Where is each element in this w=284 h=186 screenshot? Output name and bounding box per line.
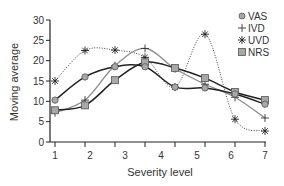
circle-marker-icon	[262, 101, 268, 107]
asterisk-marker-icon	[51, 77, 59, 85]
circle-marker-icon	[142, 64, 148, 70]
line-chart: 0510152025301234567 VAS IVD UVD NRS Seve…	[0, 0, 284, 186]
circle-marker-icon	[52, 97, 58, 103]
x-tick-label: 4	[158, 150, 164, 161]
legend-item-nrs: NRS	[239, 47, 270, 58]
legend-item-vas: VAS	[239, 11, 268, 22]
plus-marker-icon	[238, 24, 246, 32]
legend: VAS IVD UVD NRS	[238, 11, 269, 58]
asterisk-marker-icon	[201, 30, 209, 38]
x-axis-title: Severity level	[127, 166, 192, 178]
y-tick-label: 20	[33, 55, 45, 66]
x-tick-label: 2	[87, 150, 93, 161]
y-tick-label: 30	[33, 15, 45, 26]
legend-item-ivd: IVD	[238, 23, 265, 34]
y-tick-label: 15	[33, 76, 45, 87]
axes: 0510152025301234567	[33, 15, 268, 162]
x-tick-label: 6	[228, 150, 234, 161]
y-axis-title: Moving average	[8, 43, 20, 121]
square-marker-icon	[202, 75, 209, 82]
legend-item-uvd: UVD	[238, 35, 269, 46]
square-marker-icon	[52, 107, 59, 114]
circle-marker-icon	[232, 91, 238, 97]
x-tick-label: 7	[262, 150, 268, 161]
x-tick-label: 5	[194, 150, 200, 161]
legend-label-uvd: UVD	[248, 35, 269, 46]
asterisk-marker-icon	[261, 127, 269, 135]
square-marker-icon	[82, 102, 89, 109]
x-tick-label: 1	[52, 150, 58, 161]
circle-marker-icon	[202, 85, 208, 91]
square-marker-icon	[239, 49, 246, 56]
circle-marker-icon	[172, 84, 178, 90]
asterisk-marker-icon	[81, 47, 89, 55]
circle-marker-icon	[82, 74, 88, 80]
legend-label-nrs: NRS	[248, 47, 269, 58]
legend-label-vas: VAS	[248, 11, 268, 22]
circle-marker-icon	[239, 13, 245, 19]
asterisk-marker-icon	[231, 115, 239, 123]
circle-marker-icon	[112, 64, 118, 70]
series-markers	[51, 30, 269, 135]
square-marker-icon	[172, 64, 179, 71]
y-tick-label: 0	[38, 137, 44, 148]
asterisk-marker-icon	[111, 46, 119, 54]
y-tick-label: 25	[33, 35, 45, 46]
y-tick-label: 10	[33, 96, 45, 107]
square-marker-icon	[112, 77, 119, 84]
asterisk-marker-icon	[238, 36, 246, 44]
legend-label-ivd: IVD	[248, 23, 265, 34]
y-tick-label: 5	[38, 116, 44, 127]
x-tick-label: 3	[122, 150, 128, 161]
plus-marker-icon	[141, 44, 149, 52]
